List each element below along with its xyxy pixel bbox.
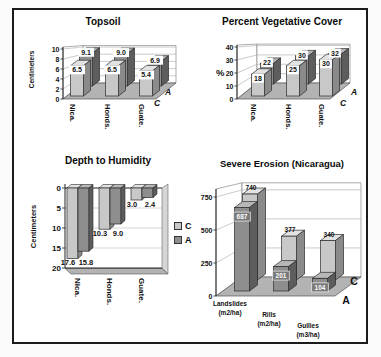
x-category-label: Guate. [317,104,326,127]
y-tick-label: 10 [226,83,234,90]
bar-front-face [78,188,89,251]
bar-side-face [89,185,93,252]
data-label: 15.8 [79,258,94,267]
x-category-label: Honds. [103,104,112,129]
legend-label-A: A [185,235,192,245]
x-category-label: Honds. [105,278,114,305]
data-label: 6.9 [150,57,160,64]
x-category-label: Nica. [73,278,82,297]
vegcover-panel: Percent Vegetative Cover % 0102030402230… [196,14,368,142]
topsoil-chart: 02468109.19.06.96.56.55.4ACNica.Honds.Gu… [18,14,188,142]
bar-side-face [309,50,316,84]
data-label: 2.4 [145,200,156,209]
bar-side-face [121,185,125,225]
erosion-chart: 0250500750740377340687201104CALandslides… [196,148,368,348]
depth-panel: Depth to Humidity Centimeters 0510152017… [18,150,198,312]
data-label: 17.6 [61,258,76,267]
depth-chart: 0510152017.615.810.39.03.02.4Nica.Honds.… [18,150,198,312]
depth-legend: C A [174,221,192,245]
x-category-label: (m3/ha) [296,331,319,339]
legend-label-C: C [185,221,192,231]
data-label: 6.5 [72,66,82,73]
y-tick-label: 2 [56,86,60,93]
y-tick-label: 750 [201,194,213,201]
data-label: 201 [276,272,287,279]
y-tick-label: 10 [52,224,61,233]
data-label: 30 [298,52,306,59]
data-label: 32 [331,50,339,57]
y-tick-label: 500 [201,227,213,234]
depth-axis-front-label: A [342,294,350,306]
bar-side-face [153,65,160,96]
bar-side-face [250,202,258,291]
bar-side-face [300,60,307,96]
x-category-label: (m2/ha) [218,309,241,317]
y-tick-label: 5 [57,204,62,213]
data-label: 104 [315,284,326,291]
x-category-label: Nica. [249,104,258,122]
depth-axis-front-label: C [340,98,347,108]
data-label: 25 [289,66,297,73]
y-tick-label: 0 [57,184,62,193]
data-label: 3.0 [127,200,137,209]
floor [65,269,168,275]
bar-side-face [336,235,344,280]
data-label: 10.3 [93,229,108,238]
data-label: 5.4 [141,71,151,78]
depth-axis-back-label: A [350,87,357,97]
legend-item-C: C [174,221,192,231]
data-label: 9.0 [113,229,123,238]
legend-swatch-A [174,236,182,244]
y-tick-label: 8 [56,56,60,63]
bar-side-face [342,49,349,84]
data-label: 30 [322,60,330,67]
bar-side-face [297,230,305,280]
data-label: 377 [285,226,296,233]
y-tick-label: 10 [52,46,60,53]
data-label: 6.5 [107,66,117,73]
plot-area: 0250500750740377340687201104CALandslides… [201,183,361,339]
depth-axis-back-label: A [164,87,171,97]
x-category-label: Honds. [284,104,293,129]
data-label: 22 [263,59,271,66]
figure-frame: Topsoil Centimeters 02468109.19.06.96.56… [12,8,368,344]
depth-axis-back-label: C [350,275,358,287]
data-label: 9.0 [116,49,126,56]
bar-front-face [131,188,142,200]
y-tick-label: 0 [230,96,234,103]
y-tick-label: 30 [226,57,234,64]
y-tick-label: 0 [209,293,213,300]
depth-axis-front-label: C [154,98,161,108]
data-label: 340 [324,231,335,238]
topsoil-panel: Topsoil Centimeters 02468109.19.06.96.56… [18,14,188,142]
bar-front-face [67,188,78,258]
bar-front-face [142,188,153,198]
data-label: 687 [237,213,248,220]
y-tick-label: 20 [226,70,234,77]
y-tick-label: 0 [56,96,60,103]
bar-front-face [110,188,121,224]
data-label: 740 [246,184,257,191]
x-category-label: Nica. [68,104,77,122]
y-tick-label: 250 [201,260,213,267]
plot-area: 02468109.19.06.96.56.55.4ACNica.Honds.Gu… [52,46,176,130]
x-category-label: Gullies [297,322,319,329]
legend-swatch-C [174,222,182,230]
x-category-label: Guate. [137,104,146,127]
plot-area: 0510152017.615.810.39.03.02.4Nica.Honds.… [52,184,168,305]
bar-side-face [333,54,340,96]
bar-side-face [258,188,266,280]
y-tick-label: 40 [226,44,234,51]
y-tick-label: 4 [56,76,60,83]
legend-item-A: A [174,235,192,245]
bar-front-face [99,188,110,229]
x-category-label: Rills [262,311,276,318]
right-wall [162,184,168,274]
x-category-label: Guate. [137,278,146,303]
data-label: 9.1 [81,49,91,56]
y-tick-label: 6 [56,66,60,73]
y-tick-label: 15 [52,244,61,253]
x-category-label: (m2/ha) [257,320,280,328]
figure-canvas: Topsoil Centimeters 02468109.19.06.96.56… [0,0,381,357]
vegcover-chart: 010203040223032182530ACNica.Honds.Guate. [196,14,368,142]
